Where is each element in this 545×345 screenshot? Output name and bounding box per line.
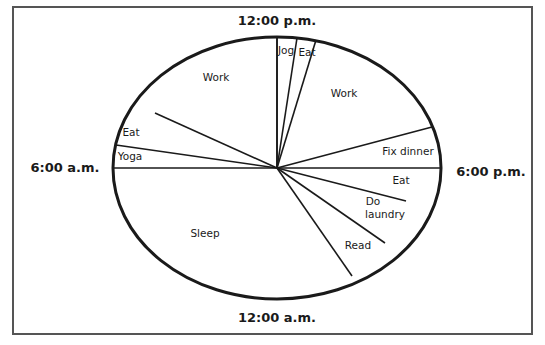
slice-label-work: Work [331, 87, 359, 99]
slice-label-eat: Eat [392, 174, 409, 186]
clock-label-right: 6:00 p.m. [456, 164, 526, 179]
slice-divider [277, 38, 297, 168]
clock-label-left: 6:00 a.m. [30, 160, 99, 175]
slice-label-jog: Jog [277, 44, 294, 56]
clock-label-bottom: 12:00 a.m. [238, 310, 316, 325]
slice-label-read: Read [345, 239, 371, 251]
slice-label-fix-dinner: Fix dinner [382, 145, 434, 157]
slice-label-eat: Eat [122, 126, 139, 138]
slice-labels: JogEatWorkFix dinnerEatDolaundryReadSlee… [117, 44, 435, 251]
schedule-pie-chart: JogEatWorkFix dinnerEatDolaundryReadSlee… [0, 0, 545, 345]
slice-divider [277, 40, 316, 168]
slice-label-work: Work [203, 71, 231, 83]
clock-label-top: 12:00 p.m. [238, 13, 317, 28]
slice-label-sleep: Sleep [190, 227, 220, 239]
slice-label-eat: Eat [298, 46, 315, 58]
slice-label-yoga: Yoga [117, 150, 143, 162]
